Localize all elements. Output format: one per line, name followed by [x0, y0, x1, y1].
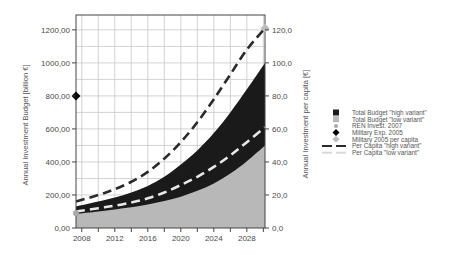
legend-swatch [333, 110, 339, 116]
left-axis-tick-label: 800,00 [46, 92, 71, 101]
left-axis-tick-label: 1200,00 [41, 26, 70, 35]
left-axis-tick-label: 400,00 [46, 158, 71, 167]
legend-item: Per Capita "low variant" [322, 149, 419, 157]
left-axis-tick-label: 0,00 [54, 224, 70, 233]
right-axis-tick-label: 40,0 [272, 158, 288, 167]
x-axis-tick-label: 2020 [172, 234, 190, 243]
right-axis-tick-label: 80,0 [272, 92, 288, 101]
legend-swatch [333, 116, 339, 122]
legend-diamond-icon [333, 136, 340, 143]
x-axis-tick-label: 2028 [238, 234, 256, 243]
right-axis-title: Annual Investment per capita [€] [301, 70, 310, 179]
right-axis-tick-label: 120,0 [272, 26, 293, 35]
left-axis-tick-label: 1000,00 [41, 59, 70, 68]
right-axis-tick-label: 0,0 [272, 224, 284, 233]
investment-budget-chart: 0,00200,00400,00600,00800,001000,001200,… [0, 0, 450, 262]
legend-circle-icon [334, 124, 338, 128]
x-axis-tick-label: 2016 [139, 234, 157, 243]
legend-label: Per Capita "low variant" [352, 149, 419, 157]
ren-invest-2007-marker [73, 210, 79, 216]
x-axis-tick-label: 2024 [205, 234, 223, 243]
left-axis-tick-label: 600,00 [46, 125, 71, 134]
legend-diamond-icon [333, 129, 340, 136]
right-axis-tick-label: 20,0 [272, 191, 288, 200]
legend: Total Budget "high variant"Total Budget … [322, 109, 427, 157]
right-axis-tick-label: 100,0 [272, 59, 293, 68]
x-axis-tick-label: 2012 [106, 234, 124, 243]
x-axis-tick-label: 2008 [73, 234, 91, 243]
left-axis-tick-label: 200,00 [46, 191, 71, 200]
left-axis-title: Annual Investment Budget [billion €] [21, 64, 30, 185]
right-axis-tick-label: 60,0 [272, 125, 288, 134]
